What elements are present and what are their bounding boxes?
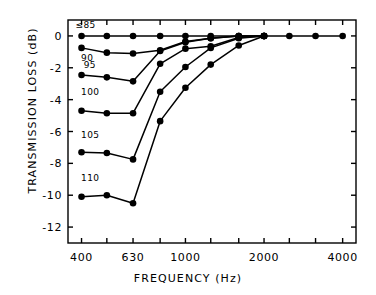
data-point xyxy=(207,45,214,52)
data-point xyxy=(78,33,85,40)
data-point xyxy=(157,33,164,40)
data-point xyxy=(339,33,346,40)
data-point xyxy=(78,45,85,52)
data-point xyxy=(130,200,137,207)
data-series-group xyxy=(78,33,346,207)
data-point xyxy=(235,35,242,42)
data-point xyxy=(157,118,164,125)
data-point xyxy=(78,149,85,156)
y-tick-label: -2 xyxy=(22,61,62,74)
series-label-105: 105 xyxy=(81,130,99,140)
data-point xyxy=(104,74,111,81)
data-point xyxy=(235,42,242,49)
data-point xyxy=(182,39,189,46)
x-tick-label: 4000 xyxy=(327,251,357,264)
data-point xyxy=(104,192,111,199)
y-tick-label: -12 xyxy=(22,221,62,234)
data-point xyxy=(78,194,85,201)
data-point xyxy=(130,33,137,40)
data-point xyxy=(130,156,137,163)
series-label-95: 95 xyxy=(84,60,96,70)
data-point xyxy=(104,49,111,56)
x-axis-title: FREQUENCY (Hz) xyxy=(0,272,376,285)
data-point xyxy=(157,48,164,55)
data-point xyxy=(104,110,111,117)
x-tick-label: 1000 xyxy=(170,251,200,264)
data-point xyxy=(207,35,214,42)
series-line-5 xyxy=(82,36,265,203)
data-point xyxy=(182,45,189,52)
y-tick-label: -4 xyxy=(22,93,62,106)
y-tick-label: -8 xyxy=(22,157,62,170)
series-label-110: 110 xyxy=(81,173,99,183)
series-label-≤85: ≤85 xyxy=(76,20,96,30)
chart-figure: TRANSMISSION LOSS (dB) FREQUENCY (Hz) 40… xyxy=(0,0,376,295)
data-point xyxy=(157,88,164,95)
data-point xyxy=(78,72,85,79)
x-tick-label: 400 xyxy=(70,251,93,264)
y-tick-label: -6 xyxy=(22,125,62,138)
x-tick-label: 2000 xyxy=(249,251,279,264)
data-point xyxy=(286,33,293,40)
data-point xyxy=(104,150,111,157)
data-point xyxy=(182,64,189,71)
y-tick-label: -10 xyxy=(22,189,62,202)
data-point xyxy=(182,84,189,91)
series-label-100: 100 xyxy=(81,87,99,97)
data-point xyxy=(130,50,137,57)
data-point xyxy=(78,107,85,114)
x-tick-label: 630 xyxy=(122,251,145,264)
data-point xyxy=(261,33,268,40)
series-line-2 xyxy=(82,36,265,81)
y-tick-label: 0 xyxy=(22,29,62,42)
data-point xyxy=(207,61,214,68)
data-point xyxy=(104,33,111,40)
data-point xyxy=(157,61,164,68)
data-point xyxy=(130,110,137,117)
data-point xyxy=(312,33,319,40)
data-point xyxy=(130,78,137,85)
